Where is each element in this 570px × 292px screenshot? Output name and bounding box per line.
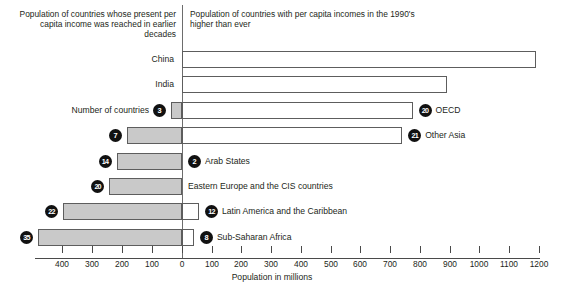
population-diverging-bar-chart: Population of countries whose present pe… [0,0,570,292]
x-axis-tick [539,246,540,253]
x-axis-tick [212,246,213,253]
badge-left-country-count: 14 [99,155,112,168]
chart-row: India [0,76,570,94]
x-axis-tick [479,246,480,253]
x-axis-tick [301,246,302,253]
x-axis-tick [241,246,242,253]
chart-row: China [0,51,570,69]
x-axis-tick [122,246,123,253]
left-panel-caption: Population of countries whose present pe… [8,9,176,40]
x-axis-tick [450,246,451,253]
bar-right-higher-than-ever [182,102,413,119]
x-axis-tick [271,246,272,253]
chart-row: 2212Latin America and the Caribbean [0,203,570,221]
bar-left-earlier-decades [109,178,182,195]
chart-row: 142Arab States [0,153,570,171]
row-label-region: Other Asia [425,130,465,140]
badge-left-country-count: 3 [153,104,166,117]
bar-left-earlier-decades [117,153,182,170]
bar-left-earlier-decades [38,229,182,246]
x-axis-tick [62,246,63,253]
bar-right-higher-than-ever [182,229,194,246]
bar-left-earlier-decades [63,203,182,220]
x-axis-tick [420,246,421,253]
badge-left-country-count: 20 [91,180,104,193]
x-axis-tick [509,246,510,253]
number-of-countries-note: Number of countries [51,105,149,115]
badge-right-country-count: 21 [408,129,421,142]
row-label-region: Eastern Europe and the CIS countries [188,181,333,191]
badge-left-country-count: 35 [20,231,33,244]
right-panel-caption: Population of countries with per capita … [190,9,440,29]
x-axis-tick [182,246,183,253]
badge-left-country-count: 22 [45,205,58,218]
x-axis-tick-label: 1200 [519,259,559,269]
badge-right-country-count: 2 [188,155,201,168]
row-label-region: Arab States [205,156,250,166]
row-label-region: OECD [436,105,461,115]
chart-row: 3Number of countries20OECD [0,102,570,120]
x-axis-tick [360,246,361,253]
row-label-region: Latin America and the Caribbean [222,206,347,216]
x-axis-tick [390,246,391,253]
badge-right-country-count: 20 [419,104,432,117]
chart-row: 358Sub-Saharan Africa [0,229,570,247]
badge-right-country-count: 8 [200,231,213,244]
chart-row: 20Eastern Europe and the CIS countries [0,178,570,196]
badge-right-country-count: 12 [205,205,218,218]
row-label-region: Sub-Saharan Africa [217,232,292,242]
bar-left-earlier-decades [171,102,182,119]
bar-right-higher-than-ever [182,203,199,220]
badge-left-country-count: 7 [109,129,122,142]
row-label-region: India [74,79,174,89]
bar-right-higher-than-ever [182,76,447,93]
row-label-region: China [74,54,174,64]
x-axis-tick [331,246,332,253]
x-axis-tick [152,246,153,253]
bar-left-earlier-decades [127,127,182,144]
bar-right-higher-than-ever [182,127,402,144]
bar-right-higher-than-ever [182,51,536,68]
x-axis-title: Population in millions [142,272,402,282]
x-axis-tick [92,246,93,253]
chart-row: 721Other Asia [0,127,570,145]
